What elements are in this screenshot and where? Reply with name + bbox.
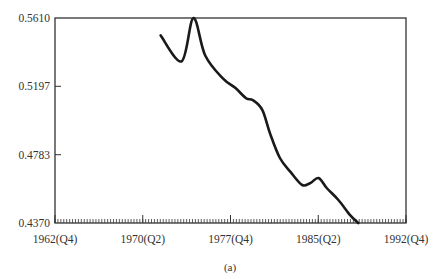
x-tick-label: 1977(Q4) [208, 233, 253, 246]
figure-caption: (a) [224, 261, 237, 274]
y-major-ticks [55, 86, 61, 154]
y-tick-label: 0.5197 [18, 80, 50, 92]
x-tick-label: 1962(Q4) [33, 233, 78, 246]
x-tick-label: 1970(Q2) [120, 233, 165, 246]
y-tick-label: 0.5610 [18, 12, 50, 24]
y-tick-label: 0.4370 [18, 217, 50, 229]
data-series-line [161, 18, 359, 223]
line-chart: 0.5610 0.5197 0.4783 0.4370 1962(Q4) 197… [0, 0, 442, 279]
plot-frame [55, 18, 406, 223]
y-tick-label: 0.4783 [18, 149, 50, 161]
x-tick-label: 1985(Q2) [296, 233, 341, 246]
x-tick-label: 1992(Q4) [384, 233, 429, 246]
